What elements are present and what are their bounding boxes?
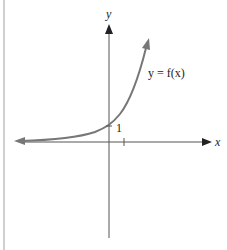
curve-top-arrow-icon — [142, 38, 150, 50]
x-axis-label: x — [215, 136, 220, 148]
x-axis-arrow-icon — [202, 138, 212, 146]
curve-left-arrow-icon — [14, 137, 25, 145]
graph-canvas — [0, 0, 227, 250]
y-axis-arrow-icon — [105, 24, 113, 34]
y-intercept-label: 1 — [116, 122, 122, 134]
exponential-curve — [20, 48, 146, 141]
y-axis-label: y — [106, 8, 111, 20]
curve-label: y = f(x) — [148, 67, 185, 79]
